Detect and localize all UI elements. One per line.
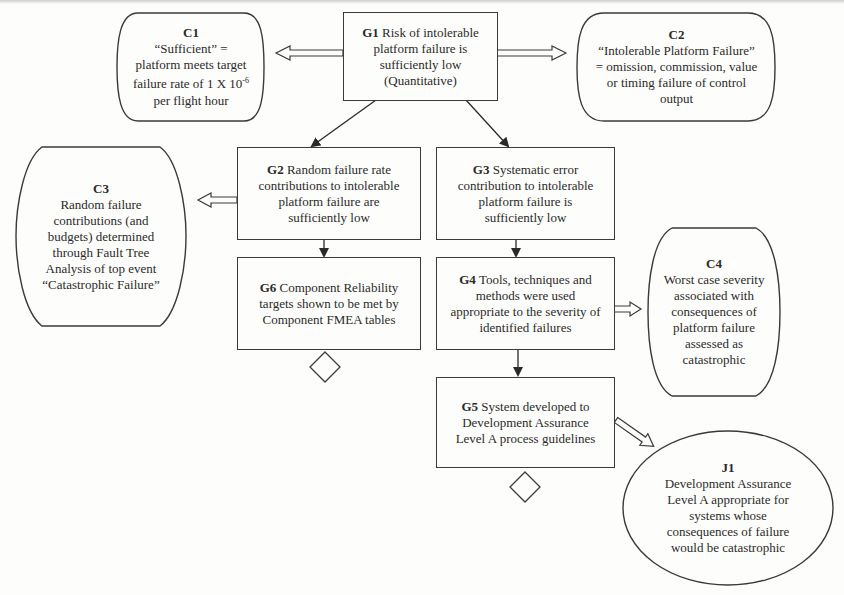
node-text-line: “Catastrophic Failure” (42, 277, 159, 293)
node-text-line: contribution to intolerable (458, 178, 594, 194)
node-text-line: Component Reliability (280, 280, 399, 295)
exponent: -6 (242, 76, 249, 85)
node-text-line: Random failure rate (287, 162, 391, 177)
node-text-line: catastrophic (664, 352, 765, 368)
goal-g1[interactable]: G1 Risk of intolerable platform failure … (343, 12, 498, 101)
edge-g4-c4 (614, 302, 641, 316)
edge-g1-c1 (276, 46, 343, 60)
node-text-line: (Quantitative) (362, 73, 479, 89)
node-text-line: platform failure (664, 320, 765, 336)
node-text-line: “Intolerable Platform Failure” (596, 43, 758, 59)
goal-g4[interactable]: G4 Tools, techniques and methods were us… (436, 257, 615, 350)
node-text-line: targets shown to be met by (259, 296, 399, 312)
goal-g3[interactable]: G3 Systematic error contribution to into… (436, 147, 615, 240)
node-id: G6 (260, 280, 277, 295)
node-text-line: Risk of intolerable (382, 25, 479, 40)
node-text-line: platform failure is (458, 194, 594, 210)
node-text-line: Development Assurance (665, 476, 792, 492)
undeveloped-diamond-g6 (310, 352, 340, 382)
context-c1[interactable]: C1 “Sufficient” = platform meets target … (117, 13, 265, 121)
node-text-line: per flight hour (133, 93, 249, 109)
node-text-line: Development Assurance (456, 415, 596, 431)
edge-g1-g3 (466, 100, 508, 146)
node-text-line: consequences of (664, 304, 765, 320)
node-text-line: systems whose (665, 508, 792, 524)
node-id: G1 (362, 25, 379, 40)
node-text-line: System developed to (481, 399, 589, 414)
edge-g1-c2 (497, 46, 566, 60)
goal-g2[interactable]: G2 Random failure rate contributions to … (237, 147, 421, 240)
justification-j1[interactable]: J1 Development Assurance Level A appropr… (623, 431, 833, 585)
node-text-line: consequences of failure (665, 524, 792, 540)
context-c3[interactable]: C3 Random failure contributions (and bud… (16, 147, 186, 326)
node-text-line: sufficiently low (458, 210, 594, 226)
node-id: C1 (133, 25, 249, 41)
undeveloped-diamond-g5 (510, 472, 540, 502)
node-text-line: assessed as (664, 336, 765, 352)
goal-g5[interactable]: G5 System developed to Development Assur… (436, 377, 615, 468)
node-text-line: Component FMEA tables (259, 312, 399, 328)
node-text-line: Level A appropriate for (665, 492, 792, 508)
node-text-line: Systematic error (493, 162, 579, 177)
node-text-line: sufficiently low (362, 57, 479, 73)
node-text-line: failure rate of 1 X 10 (133, 77, 242, 92)
node-id: G3 (473, 162, 490, 177)
node-text-line: sufficiently low (259, 210, 400, 226)
node-text-line: budgets) determined (42, 229, 159, 245)
node-text-line: platform failure are (259, 194, 400, 210)
node-text-line: output (596, 91, 758, 107)
node-text-line: through Fault Tree (42, 245, 159, 261)
context-c4[interactable]: C4 Worst case severity associated with c… (648, 228, 780, 396)
node-text-line: would be catastrophic (665, 540, 792, 556)
node-text-line: contributions to intolerable (259, 178, 400, 194)
goal-g6[interactable]: G6 Component Reliability targets shown t… (237, 257, 421, 350)
node-text-line: associated with (664, 288, 765, 304)
node-id: G2 (267, 162, 284, 177)
node-id: C2 (596, 27, 758, 43)
context-c2[interactable]: C2 “Intolerable Platform Failure” = omis… (577, 13, 776, 121)
node-id: J1 (665, 460, 792, 476)
node-text-line: identified failures (450, 320, 600, 336)
node-text-line: “Sufficient” = (133, 41, 249, 57)
node-text-line: appropriate to the severity of (450, 304, 600, 320)
node-text-line: or timing failure of control (596, 75, 758, 91)
node-id: G5 (461, 399, 478, 414)
node-text-line: contributions (and (42, 213, 159, 229)
node-text-line: Worst case severity (664, 272, 765, 288)
node-id: G4 (459, 272, 476, 287)
edge-g1-g2 (312, 100, 376, 146)
edge-g2-c3 (198, 193, 237, 207)
node-text-line: Analysis of top event (42, 261, 159, 277)
node-id: C3 (42, 181, 159, 197)
node-text-line: Level A process guidelines (456, 431, 596, 447)
node-id: C4 (664, 256, 765, 272)
node-text-line: platform meets target (133, 57, 249, 73)
node-text-line: Tools, techniques and (479, 272, 592, 287)
node-text-line: methods were used (450, 288, 600, 304)
node-text-line: = omission, commission, value (596, 59, 758, 75)
node-text-line: Random failure (42, 197, 159, 213)
node-text-line: platform failure is (362, 41, 479, 57)
